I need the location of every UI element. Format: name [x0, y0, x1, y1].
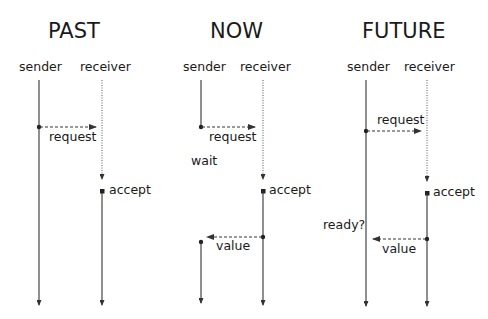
ready-label: ready?: [323, 219, 365, 232]
wait-label: wait: [191, 155, 217, 168]
value-label: value: [382, 243, 416, 256]
receiver-label: receiver: [240, 61, 291, 74]
receiver-label: receiver: [80, 61, 131, 74]
value-label: value: [216, 240, 250, 253]
panel-now: [199, 80, 266, 305]
sequence-diagrams: [0, 0, 488, 319]
accept-label: accept: [433, 186, 475, 199]
sender-label: sender: [183, 61, 226, 74]
panel-title-future: FUTURE: [362, 21, 446, 42]
sender-label: sender: [19, 61, 62, 74]
request-label: request: [209, 131, 257, 144]
sender-label: sender: [347, 61, 390, 74]
request-label: request: [377, 114, 425, 127]
accept-label: accept: [269, 184, 311, 197]
panel-title-now: NOW: [210, 21, 263, 42]
receiver-label: receiver: [404, 61, 455, 74]
panel-past: [37, 80, 105, 305]
panel-title-past: PAST: [48, 21, 100, 42]
accept-label: accept: [109, 184, 151, 197]
request-label: request: [49, 131, 97, 144]
accept-marker: [100, 189, 105, 194]
